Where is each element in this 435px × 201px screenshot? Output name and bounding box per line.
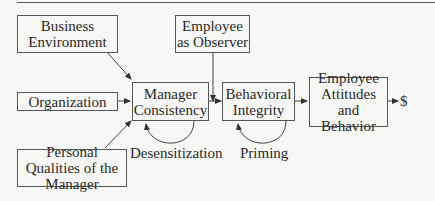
dollar-outcome: $ bbox=[400, 93, 408, 109]
desensitization-label: Desensitization bbox=[130, 145, 222, 161]
priming-label: Priming bbox=[240, 145, 288, 161]
employee-observer-label: Employee as Observer bbox=[176, 18, 249, 50]
manager-consistency-box: Manager Consistency bbox=[132, 82, 209, 121]
behavioral-integrity-label: Behavioral Integrity bbox=[223, 86, 294, 118]
personal-qualities-label: Personal Qualities of the Manager bbox=[18, 144, 126, 192]
employee-attitudes-label: Employee Attitudes and Behavior bbox=[310, 70, 387, 134]
organization-label: Organization bbox=[28, 94, 106, 110]
manager-consistency-label: Manager Consistency bbox=[133, 86, 208, 118]
employee-attitudes-box: Employee Attitudes and Behavior bbox=[309, 77, 388, 127]
business-environment-label: Business Environment bbox=[18, 18, 117, 50]
business-environment-box: Business Environment bbox=[17, 15, 118, 53]
employee-observer-box: Employee as Observer bbox=[175, 15, 250, 53]
personal-qualities-box: Personal Qualities of the Manager bbox=[17, 149, 127, 187]
organization-box: Organization bbox=[17, 92, 118, 111]
behavioral-integrity-box: Behavioral Integrity bbox=[222, 82, 295, 121]
